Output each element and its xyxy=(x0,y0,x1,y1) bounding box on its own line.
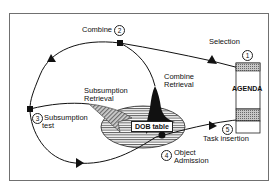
agenda-box xyxy=(236,63,260,133)
arrow-selection xyxy=(207,55,217,64)
subsumption-retrieval-label-line2: Retrieval xyxy=(84,95,114,103)
arrow-task-insertion xyxy=(209,121,217,130)
combine-retrieval-label-line2: Retrieval xyxy=(164,81,194,89)
subsumption-test-marker xyxy=(27,106,33,112)
object-admission-marker xyxy=(159,132,166,139)
agenda-label: AGENDA xyxy=(232,85,262,92)
combine-marker xyxy=(117,40,123,46)
arrow-bottom-loop xyxy=(76,158,84,168)
step-number-4: 4 xyxy=(161,150,172,161)
step-number-2: 2 xyxy=(114,25,125,36)
dob-table-label: DOB table xyxy=(131,121,173,132)
process-diagram xyxy=(0,0,280,189)
task-insertion-label: Task insertion xyxy=(203,135,249,143)
selection-label: Selection xyxy=(209,38,240,46)
subsumption-test-label-line2: test xyxy=(42,122,54,130)
step-number-1: 1 xyxy=(242,50,253,61)
object-admission-label-line2: Admission xyxy=(174,157,209,165)
combine-label: Combine xyxy=(82,26,112,34)
